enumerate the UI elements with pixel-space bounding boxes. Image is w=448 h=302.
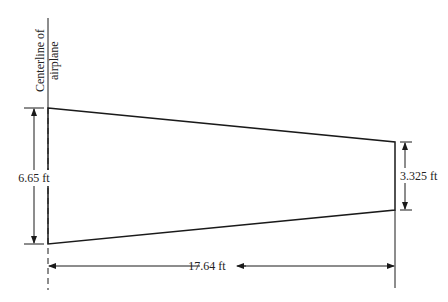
centerline-label-line1: Centerline of [33, 29, 47, 92]
centerline-label-line2: airplane [47, 41, 61, 80]
wing-outline [48, 108, 395, 244]
tip-chord-label: 3.325 ft [400, 169, 438, 183]
wing-planform-diagram: Centerline of airplane 6.65 ft 3.325 ft … [0, 0, 448, 302]
semispan-label: 17.64 ft [188, 259, 226, 273]
root-chord-label: 6.65 ft [18, 171, 50, 185]
